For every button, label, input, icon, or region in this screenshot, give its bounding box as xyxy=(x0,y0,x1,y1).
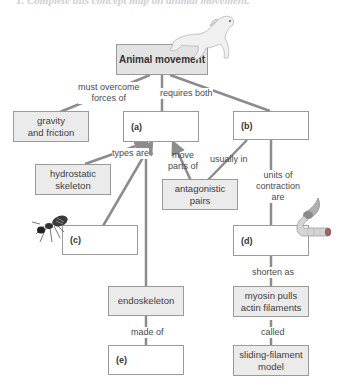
node-label: hydrostatic xyxy=(50,168,96,180)
link-label-called: called xyxy=(261,327,285,338)
node-label: (d) xyxy=(241,235,253,247)
node-b-blank[interactable]: (b) xyxy=(233,111,309,140)
node-label: and friction xyxy=(28,127,74,139)
link-label-must-overcome: must overcome forces of xyxy=(78,82,140,104)
link-text: forces of xyxy=(78,93,140,104)
node-hydrostatic-skeleton: hydrostatic skeleton xyxy=(35,164,111,195)
muscle-fiber-illustration xyxy=(288,196,338,246)
node-e-blank[interactable]: (e) xyxy=(108,345,184,375)
node-label: skeleton xyxy=(55,180,90,192)
node-myosin-actin: myosin pulls actin filaments xyxy=(233,286,309,317)
node-label: actin filaments xyxy=(241,302,302,314)
node-label: antagonistic xyxy=(175,183,226,195)
link-label-shorten-as: shorten as xyxy=(252,267,294,278)
node-label: (a) xyxy=(131,121,142,133)
node-label: gravity xyxy=(37,115,65,127)
link-label-usually-in: usually in xyxy=(210,154,248,165)
link-text: contraction xyxy=(256,181,300,192)
horse-illustration xyxy=(168,12,248,67)
node-sliding-filament: sliding-filament model xyxy=(233,345,309,376)
link-text: parts of xyxy=(168,161,198,172)
node-label: sliding-filament xyxy=(239,349,302,361)
link-label-requires-both: requires both xyxy=(160,88,213,99)
node-label: endoskeleton xyxy=(118,295,175,307)
ant-illustration xyxy=(30,212,75,250)
link-label-made-of: made of xyxy=(131,327,164,338)
node-gravity-friction: gravity and friction xyxy=(13,111,89,142)
node-label: myosin pulls xyxy=(245,290,297,302)
node-label: (b) xyxy=(241,120,253,132)
link-text: move xyxy=(168,150,198,161)
link-text: must overcome xyxy=(78,82,140,93)
node-endoskeleton: endoskeleton xyxy=(108,286,184,316)
link-text: units of xyxy=(256,170,300,181)
node-label: pairs xyxy=(190,195,211,207)
node-label: model xyxy=(258,361,284,373)
node-antagonistic-pairs: antagonistic pairs xyxy=(162,179,238,210)
link-label-move-parts-of: move parts of xyxy=(168,150,198,172)
link-label-types-are: types are xyxy=(112,148,149,159)
node-label: (e) xyxy=(116,354,127,366)
node-a-blank[interactable]: (a) xyxy=(123,111,199,142)
